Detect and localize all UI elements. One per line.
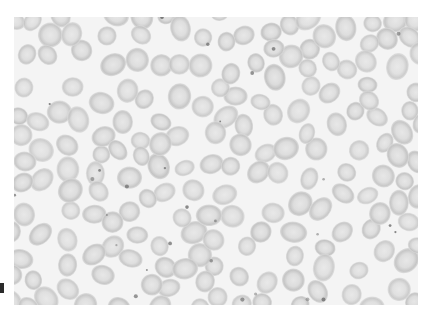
- platelet-dot: [394, 231, 396, 233]
- platelet-dot: [185, 205, 189, 209]
- platelet-dot: [209, 259, 213, 263]
- scale-marker: [0, 283, 4, 293]
- platelet-dot: [206, 43, 209, 46]
- platelet-dot: [306, 297, 310, 301]
- platelet-dot: [250, 71, 254, 75]
- red-blood-cell: [196, 205, 222, 227]
- platelet-dot: [272, 47, 276, 51]
- platelet-dot: [219, 121, 221, 123]
- platelet-dot: [164, 167, 166, 169]
- platelet-dot: [168, 242, 172, 246]
- platelet-dot: [49, 103, 51, 105]
- platelet-dot: [125, 185, 129, 189]
- platelet-dot: [90, 177, 94, 181]
- platelet-dot: [115, 244, 117, 246]
- platelet-dot: [389, 224, 392, 227]
- platelet-dot: [322, 297, 326, 301]
- red-blood-cell: [169, 54, 190, 75]
- platelet-dot: [322, 178, 325, 181]
- platelet-dot: [214, 220, 217, 223]
- platelet-dot: [316, 233, 319, 236]
- red-blood-cell: [389, 190, 409, 216]
- platelet-dot: [146, 269, 148, 271]
- blood-smear-micrograph: [14, 17, 418, 305]
- platelet-dot: [240, 298, 244, 302]
- platelet-dot: [98, 169, 101, 172]
- platelet-dot: [397, 32, 401, 36]
- platelet-dot: [106, 214, 108, 216]
- platelet-dot: [254, 292, 257, 295]
- platelet-dot: [134, 294, 138, 298]
